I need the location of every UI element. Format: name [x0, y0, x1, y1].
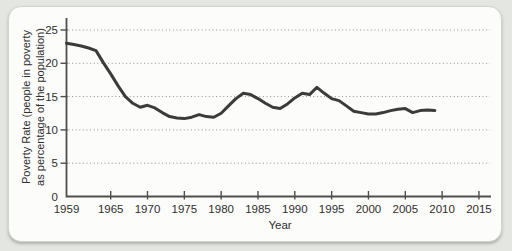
x-tick-label-2000: 2000: [356, 203, 382, 215]
x-tick-label-1985: 1985: [245, 203, 271, 215]
y-tick-label-5: 5: [52, 157, 58, 169]
x-tick-label-1965: 1965: [98, 203, 124, 215]
x-tick-label-2010: 2010: [429, 203, 455, 215]
page-background: 0510152025195919651970197519801985199019…: [0, 0, 512, 251]
x-tick-label-1990: 1990: [282, 203, 308, 215]
y-tick-label-0: 0: [52, 191, 58, 203]
series-poverty_rate: [67, 43, 435, 118]
x-tick-label-2005: 2005: [393, 203, 419, 215]
x-tick-label-1980: 1980: [208, 203, 234, 215]
x-tick-label-1975: 1975: [172, 203, 198, 215]
y-axis-label-line1: Poverty Rate (people in poverty: [20, 30, 32, 184]
x-tick-label-2015: 2015: [466, 203, 492, 215]
x-axis-label: Year: [268, 219, 291, 231]
x-tick-label-1959: 1959: [54, 203, 80, 215]
x-tick-label-1995: 1995: [319, 203, 345, 215]
x-tick-label-1970: 1970: [135, 203, 161, 215]
poverty-rate-line-chart: 0510152025195919651970197519801985199019…: [0, 0, 512, 251]
y-axis-label: Poverty Rate (people in poverty as perce…: [19, 28, 48, 186]
y-axis-label-line2: as percentage of the population): [34, 28, 46, 186]
